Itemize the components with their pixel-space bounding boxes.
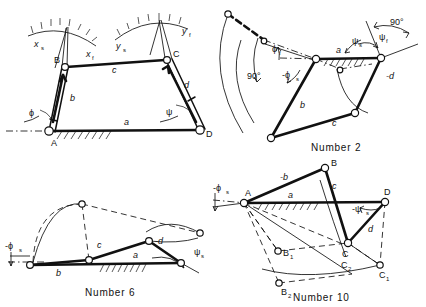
label-link-c-10: c: [332, 181, 337, 191]
label-yf: y: [181, 26, 187, 36]
joint-alt-top[interactable]: [225, 11, 231, 17]
label-link-a: a: [124, 117, 129, 127]
joint-mid-6[interactable]: [86, 257, 93, 264]
angle-90-arrow-right: [403, 32, 409, 38]
arc-sweep-6-right: [146, 224, 200, 233]
alt-pos-1-10: [244, 203, 348, 251]
joint-C1-10[interactable]: [377, 262, 383, 268]
joint-B[interactable]: [62, 64, 69, 71]
arc-C-sweep-10: [262, 265, 380, 275]
pointer-y-right: [161, 20, 172, 59]
label-B2-sub-10: 2: [288, 293, 292, 299]
arc-sweep-b-left: [220, 14, 243, 133]
joint-bottom-2[interactable]: [267, 134, 274, 141]
joint-left-6[interactable]: [27, 262, 34, 269]
D-to-C1-dash: [380, 202, 385, 265]
B2-to-C2-dash: [279, 274, 352, 283]
ground-link-a: [49, 130, 200, 131]
label-neg-phi-s-6: -ϕ: [5, 241, 13, 251]
label-psi-s-sub-6: s: [201, 253, 204, 259]
label-C1-sub-10: 1: [386, 276, 390, 282]
label-xf-sub: f: [92, 55, 94, 61]
joint-A-10[interactable]: [240, 199, 247, 206]
label-joint-A: A: [51, 138, 57, 148]
A-to-C2-dash-line: [244, 203, 352, 274]
fig-top-left-graphics: [6, 13, 205, 139]
label-psi-s-6: ψ: [194, 247, 200, 257]
angle-90-arrow-right2: [374, 22, 379, 29]
label-ys: y: [115, 41, 121, 51]
label-xs: x: [33, 39, 39, 49]
rocker-d-outline-2: [172, 59, 205, 129]
label-link-b: b: [70, 93, 75, 103]
alt-crank-6: [82, 204, 89, 260]
rocker-d-arrow: [163, 66, 169, 73]
fig-number-6-graphics: [8, 201, 203, 273]
joint-D-10[interactable]: [381, 198, 388, 205]
label-joint-D: D: [206, 129, 213, 139]
label-neg-psi-s-sub-10: s: [366, 210, 369, 216]
joint-alt-mid[interactable]: [261, 38, 267, 44]
label-link-a-10: a: [288, 190, 293, 200]
label-neg-phi-s-sub-6: s: [19, 247, 22, 253]
joint-A[interactable]: [45, 127, 53, 135]
joint-B-10[interactable]: [321, 164, 328, 171]
label-C-10: C: [342, 249, 349, 259]
joint-B1-10[interactable]: [275, 248, 281, 254]
label-B2-10: B: [281, 287, 287, 297]
label-link-c: c: [112, 65, 117, 75]
joint-right-6[interactable]: [178, 260, 185, 267]
joint-C-10[interactable]: [344, 239, 351, 246]
joint-B2-10[interactable]: [276, 280, 282, 286]
joint-d-6[interactable]: [146, 238, 153, 245]
label-link-b-6: b: [56, 268, 61, 278]
joint-C[interactable]: [164, 57, 171, 64]
label-angle-psi: ψ: [166, 107, 172, 117]
joint-ground-left-2[interactable]: [312, 55, 319, 62]
label-link-a-2: a: [336, 45, 341, 55]
pointer-y-left: [159, 20, 165, 58]
fig-number-10-graphics: [213, 164, 389, 286]
label-link-neg-b-10: -b: [280, 172, 288, 182]
label-link-d: d: [184, 80, 190, 90]
arc-sweep-b-inner: [236, 40, 254, 123]
label-xs-sub: s: [41, 45, 44, 51]
pointer-x-right: [67, 27, 68, 67]
arc-C-inner-10: [348, 243, 380, 265]
label-xf: x: [85, 49, 91, 59]
ground-hatching-1: [57, 131, 111, 139]
joint-ground-right-2[interactable]: [377, 54, 384, 61]
label-angle-phi: ϕ: [29, 108, 34, 118]
link-neg-d-6: [149, 241, 181, 263]
ref-line-10-left: [213, 203, 244, 207]
label-yf-sub: f: [189, 32, 191, 38]
label-link-neg-d-6: -d: [155, 236, 164, 246]
caption-number-10: Number 10: [293, 292, 350, 303]
A-to-B1-dash: [244, 203, 278, 251]
label-B-10: B: [331, 158, 337, 168]
label-link-neg-d-2: -d: [386, 71, 395, 81]
label-psi-s: ψ: [352, 36, 358, 46]
label-neg-psi-s-10: -ψ: [352, 204, 361, 214]
joint-alt-right-6[interactable]: [197, 230, 203, 236]
label-link-d-10: d: [368, 224, 374, 234]
label-C2-10: C: [341, 260, 348, 270]
label-B1-sub-10: 1: [290, 254, 294, 260]
label-link-c-6: c: [97, 240, 102, 250]
joint-alt-top-6[interactable]: [79, 201, 85, 207]
label-link-c-2: c: [332, 118, 337, 128]
label-psi-f-sub: f: [386, 38, 388, 44]
label-joint-B: B: [54, 55, 60, 65]
label-neg-phi-s-sub-10: s: [226, 189, 229, 195]
label-C1-10: C: [379, 270, 386, 280]
label-D-10: D: [384, 187, 391, 197]
label-psi-s-sub: s: [359, 42, 362, 48]
ref-line-right: [381, 44, 418, 58]
joint-right-2[interactable]: [351, 109, 358, 116]
joint-D[interactable]: [196, 126, 204, 134]
joint-inner-2[interactable]: [337, 67, 343, 73]
angle-phi-leader: [40, 110, 51, 118]
label-joint-C: C: [173, 49, 180, 59]
label-neg-phi-s: -ϕ: [282, 70, 290, 80]
alt-config-link-top: [228, 14, 264, 40]
